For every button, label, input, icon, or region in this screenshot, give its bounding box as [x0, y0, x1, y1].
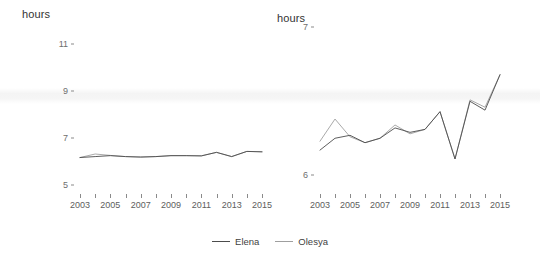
- legend-entry-olesya[interactable]: Olesya: [275, 236, 328, 247]
- chart-panel-left: hours 57911 2003200520072009201120132015: [0, 0, 272, 228]
- chart-legend: ElenaOlesya: [0, 236, 540, 247]
- series-line-elena: [80, 151, 262, 157]
- left-panel-plot-area: [0, 0, 272, 228]
- chart-figure: hours 57911 2003200520072009201120132015…: [0, 0, 540, 263]
- series-line-olesya: [80, 151, 262, 157]
- series-line-elena: [320, 75, 500, 159]
- legend-label: Olesya: [298, 236, 328, 247]
- legend-line-swatch-icon: [212, 241, 230, 242]
- legend-label: Elena: [235, 236, 259, 247]
- chart-panel-right: hours 67 2003200520072009201120132015: [272, 0, 540, 228]
- series-line-olesya: [320, 75, 500, 159]
- right-panel-plot-area: [272, 0, 540, 228]
- legend-entry-elena[interactable]: Elena: [212, 236, 259, 247]
- legend-line-swatch-icon: [275, 241, 293, 242]
